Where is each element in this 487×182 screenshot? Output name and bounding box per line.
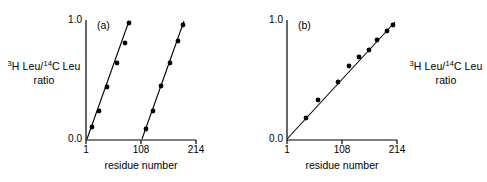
panel-b: 1.0 0.0 1 108 214 (b) residue number 3H … <box>201 0 407 182</box>
panel-a-x-axis-title: residue number <box>86 159 196 171</box>
panel-b-x-axis-title: residue number <box>287 159 397 171</box>
panel-b-y-axis-label: 3H Leu/14C Leu ratio <box>404 60 487 87</box>
data-point <box>90 125 95 130</box>
data-point <box>176 39 181 44</box>
data-point <box>168 61 173 66</box>
y-label-pre: H Leu/ <box>12 60 44 72</box>
data-point <box>144 127 149 132</box>
panel-a-y-axis-label-line2: ratio <box>2 74 86 87</box>
panel-b-ytick-label-top: 1.0 <box>253 14 283 25</box>
panel-a-y-axis-label: 3H Leu/14C Leu ratio <box>2 60 86 87</box>
y-label-pre: H Leu/ <box>414 60 446 72</box>
panel-a-y-axis-label-line1: 3H Leu/14C Leu <box>2 60 86 74</box>
data-point <box>115 61 120 66</box>
panel-a-xtick-label-1: 1 <box>76 144 96 155</box>
data-point <box>151 109 156 114</box>
data-point <box>97 109 102 114</box>
panel-a-letter: (a) <box>97 19 110 31</box>
panel-b-xtick-label-108: 108 <box>327 144 357 155</box>
data-point <box>105 85 110 90</box>
data-point <box>391 23 396 28</box>
sup-14: 14 <box>43 59 52 68</box>
y-label-post: C Leu <box>52 60 81 72</box>
data-point <box>123 41 128 46</box>
data-point <box>367 48 372 53</box>
panel-b-xtick-label-214: 214 <box>382 144 412 155</box>
panel-b-letter: (b) <box>298 19 311 31</box>
data-point <box>385 29 390 34</box>
panel-b-y-axis-label-line1: 3H Leu/14C Leu <box>404 60 487 74</box>
sup-3: 3 <box>8 59 12 68</box>
data-point <box>357 55 362 60</box>
panel-b-y-axis-label-line2: ratio <box>404 74 487 87</box>
data-point <box>375 38 380 43</box>
data-point <box>159 84 164 89</box>
data-point <box>304 116 309 121</box>
panel-a-fit-line-1 <box>87 21 129 139</box>
data-point <box>316 98 321 103</box>
data-point <box>181 23 186 28</box>
panel-a-ytick-label-bottom: 0.0 <box>52 133 82 144</box>
sup-14: 14 <box>445 59 454 68</box>
data-point <box>336 80 341 85</box>
panel-a-ytick-label-top: 1.0 <box>52 14 82 25</box>
y-label-post: C Leu <box>454 60 483 72</box>
panel-a: 1.0 0.0 1 108 214 (a) residue number 3H … <box>0 0 206 182</box>
panel-b-ytick-label-bottom: 0.0 <box>253 133 283 144</box>
data-point <box>347 64 352 69</box>
data-point <box>127 21 132 26</box>
panel-b-xtick-label-1: 1 <box>277 144 297 155</box>
sup-3: 3 <box>410 59 414 68</box>
panel-a-xtick-label-108: 108 <box>126 144 156 155</box>
